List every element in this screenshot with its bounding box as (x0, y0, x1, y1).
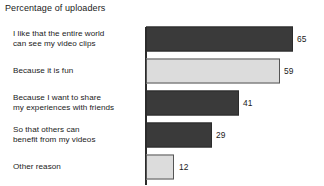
bar-chart: Percentage of uploaders I like that the … (0, 0, 324, 186)
bar-category-label: So that others can benefit from my video… (13, 125, 141, 146)
chart-title: Percentage of uploaders (5, 3, 105, 13)
bar-category-label: Other reason (13, 162, 141, 172)
bar-segment (146, 155, 174, 180)
bar-segment (146, 91, 239, 116)
bar-row: Because I want to share my experiences w… (0, 88, 324, 118)
bar-category-label: Because I want to share my experiences w… (13, 93, 141, 114)
bar-category-label-line: Because I want to share (13, 93, 141, 103)
bar-segment (146, 59, 280, 84)
bar-value-label: 12 (179, 162, 188, 172)
bar-category-label-line: can see my video clips (13, 39, 141, 49)
bar-category-label-line: I like that the entire world (13, 29, 141, 39)
bar-value-label: 41 (243, 98, 252, 108)
bar-row: Because it is fun 59 (0, 56, 324, 86)
bar-value-label: 29 (216, 130, 225, 140)
bar-category-label-line: Because it is fun (13, 66, 141, 76)
bar-category-label-line: Other reason (13, 162, 141, 172)
bar-category-label: Because it is fun (13, 66, 141, 76)
bar-segment (146, 123, 212, 148)
bar-value-label: 65 (297, 34, 306, 44)
bar-row: Other reason 12 (0, 152, 324, 182)
bar-row: I like that the entire world can see my … (0, 24, 324, 54)
bar-category-label-line: So that others can (13, 125, 141, 135)
bar-category-label: I like that the entire world can see my … (13, 29, 141, 50)
bar-category-label-line: my experiences with friends (13, 103, 141, 113)
plot-area: I like that the entire world can see my … (0, 24, 324, 186)
bar-category-label-line: benefit from my videos (13, 135, 141, 145)
bar-value-label: 59 (284, 66, 293, 76)
bar-segment (146, 27, 293, 52)
bar-row: So that others can benefit from my video… (0, 120, 324, 150)
